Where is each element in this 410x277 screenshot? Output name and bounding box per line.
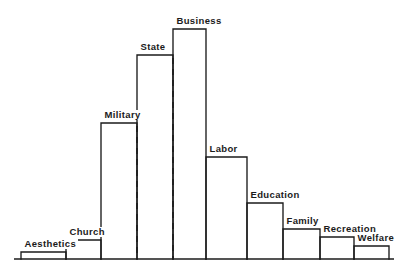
bar-aesthetics <box>21 252 66 259</box>
bar-welfare <box>354 246 389 259</box>
bar-chart: AestheticsChurchMilitaryStateBusinessLab… <box>0 0 410 277</box>
bar-family <box>283 229 320 259</box>
bar-military <box>101 123 137 259</box>
bar-label-welfare: Welfare <box>356 233 396 243</box>
chart-canvas <box>0 0 410 277</box>
bar-label-military: Military <box>103 110 142 120</box>
bar-label-family: Family <box>285 216 320 226</box>
bar-label-education: Education <box>249 190 301 200</box>
bar-label-aesthetics: Aesthetics <box>23 239 78 249</box>
bar-label-business: Business <box>175 16 223 26</box>
bar-label-labor: Labor <box>208 144 239 154</box>
dividers-group <box>137 58 173 259</box>
bar-recreation <box>320 237 354 259</box>
bar-labor <box>206 157 247 259</box>
bar-business <box>173 29 206 259</box>
bar-label-church: Church <box>68 227 106 237</box>
bar-state <box>137 55 173 259</box>
bar-education <box>247 203 283 259</box>
bar-label-state: State <box>139 42 167 52</box>
